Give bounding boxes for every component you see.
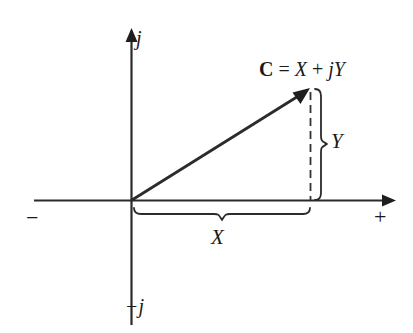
vertical-axis bbox=[126, 28, 138, 325]
y-measurement-brace bbox=[315, 89, 327, 200]
x-component-label: X bbox=[211, 227, 224, 248]
phasor-vector-arrowhead bbox=[293, 88, 311, 104]
y-component-label: Y bbox=[331, 131, 343, 152]
imaginary-axis-negative-label: −j bbox=[125, 296, 144, 316]
phasor-equation-imaginary-part: Y bbox=[334, 58, 345, 80]
phasor-equation-symbol: C bbox=[259, 58, 273, 80]
phasor-vector-line bbox=[132, 95, 300, 200]
horizontal-axis bbox=[34, 195, 396, 207]
x-measurement-brace bbox=[134, 208, 310, 220]
real-axis-positive-label: + bbox=[374, 206, 386, 228]
diagram-canvas bbox=[0, 0, 413, 333]
phasor-equation-label: C = X + jY bbox=[259, 59, 345, 79]
phasor-equation-equals: = bbox=[273, 58, 294, 80]
real-axis-negative-label: − bbox=[26, 207, 38, 229]
phasor-equation-real-part: X bbox=[295, 58, 307, 80]
imaginary-axis-positive-label: j bbox=[136, 28, 142, 48]
phasor-diagram-figure: j −j − + X Y C = X + jY bbox=[0, 0, 413, 333]
phasor-vector bbox=[132, 88, 310, 200]
phasor-equation-plus: + bbox=[307, 58, 328, 80]
